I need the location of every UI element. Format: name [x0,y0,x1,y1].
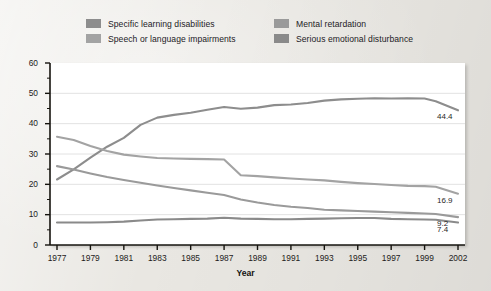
legend-label: Speech or language impairments [108,34,236,44]
series-end-label: 7.4 [437,225,448,234]
plot-area [50,63,465,245]
legend-swatch-icon [274,19,289,28]
legend-item: Serious emotional disturbance [274,32,413,45]
series-end-label: 44.4 [437,112,453,121]
legend-label: Serious emotional disturbance [296,34,413,44]
y-tick-label: 40 [8,118,38,128]
y-tick-label: 30 [8,149,38,159]
legend-swatch-icon [274,34,289,43]
legend-swatch-icon [86,34,101,43]
legend-label: Mental retardation [296,19,366,29]
chart-legend: Specific learning disabilitiesSpeech or … [86,17,416,47]
y-tick-label: 10 [8,209,38,219]
legend-item: Specific learning disabilities [86,17,215,30]
y-tick-label: 0 [8,240,38,250]
y-tick-label: 20 [8,179,38,189]
series-line [57,137,458,194]
legend-item: Speech or language impairments [86,32,236,45]
line-chart: Specific learning disabilitiesSpeech or … [0,0,491,291]
x-tick-label: 2002 [438,253,478,263]
x-axis-title: Year [0,268,491,278]
legend-item: Mental retardation [274,17,366,30]
plot-lines [50,63,465,245]
y-tick-label: 60 [8,58,38,68]
legend-swatch-icon [86,19,101,28]
series-line [57,98,458,179]
series-line [57,166,458,217]
series-line [57,218,458,223]
series-end-label: 16.9 [437,196,453,205]
legend-label: Specific learning disabilities [108,19,215,29]
y-tick-label: 50 [8,88,38,98]
